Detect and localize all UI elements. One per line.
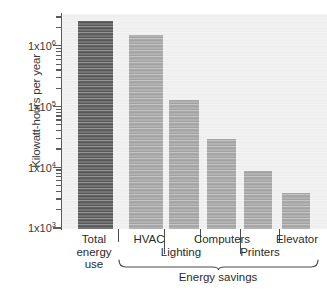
plot-area <box>62 14 327 229</box>
y-tick-minor <box>56 130 61 131</box>
bar-printers <box>244 171 272 229</box>
energy-use-bar-chart: Kilowatt-hours per year 1x106 1x105 1x10… <box>0 0 327 291</box>
x-label-total-line1: Total <box>82 233 106 245</box>
x-label-elevator: Elevator <box>276 233 318 245</box>
y-tick-minor <box>56 124 61 125</box>
caption-sliver <box>0 286 327 291</box>
y-tick-major <box>53 167 61 168</box>
y-tick-minor <box>56 27 61 28</box>
y-tick-1e5: 1x105 <box>14 101 56 113</box>
y-tick-major <box>53 45 61 46</box>
y-tick-minor <box>56 191 61 192</box>
x-label-printers: Printers <box>240 246 280 258</box>
y-tick-minor <box>56 138 61 139</box>
energy-savings-brace-icon <box>118 259 319 270</box>
y-tick-minor <box>56 112 61 113</box>
y-tick-1e4: 1x104 <box>14 162 56 174</box>
y-tick-minor <box>56 169 61 170</box>
bar-hvac <box>129 35 163 229</box>
x-label-lighting: Lighting <box>161 246 201 258</box>
y-tick-minor <box>56 209 61 210</box>
bar-total-energy-use <box>78 21 113 229</box>
y-tick-minor <box>56 64 61 65</box>
y-tick-minor <box>56 69 61 70</box>
x-label-hvac: HVAC <box>133 233 164 245</box>
y-tick-minor <box>56 55 61 56</box>
y-tick-minor <box>56 59 61 60</box>
y-tick-minor <box>56 198 61 199</box>
y-tick-minor <box>56 173 61 174</box>
y-tick-minor <box>56 48 61 49</box>
y-tick-minor <box>56 180 61 181</box>
bar-elevator <box>282 193 310 229</box>
y-tick-minor <box>56 88 61 89</box>
y-tick-major <box>53 106 61 107</box>
y-tick-major <box>53 227 61 228</box>
y-axis-tick-labels: 1x106 1x105 1x104 1x103 <box>12 0 56 291</box>
y-tick-minor <box>56 51 61 52</box>
x-label-total-line2: energy <box>76 246 111 258</box>
y-tick-minor <box>56 148 61 149</box>
y-tick-minor <box>56 115 61 116</box>
y-tick-1e3: 1x103 <box>14 222 56 234</box>
x-label-total-line3: use <box>85 258 104 270</box>
y-tick-minor <box>56 16 61 17</box>
bar-computers <box>207 139 236 229</box>
y-tick-minor <box>56 119 61 120</box>
y-tick-minor <box>56 77 61 78</box>
x-label-total-energy-use: Total energy use <box>67 233 121 271</box>
x-label-computers: Computers <box>194 233 250 245</box>
y-tick-minor <box>56 109 61 110</box>
group-label-energy-savings: Energy savings <box>179 271 258 283</box>
y-tick-minor <box>56 185 61 186</box>
bar-lighting <box>169 100 199 229</box>
y-tick-minor <box>56 176 61 177</box>
y-tick-1e6: 1x106 <box>14 40 56 52</box>
